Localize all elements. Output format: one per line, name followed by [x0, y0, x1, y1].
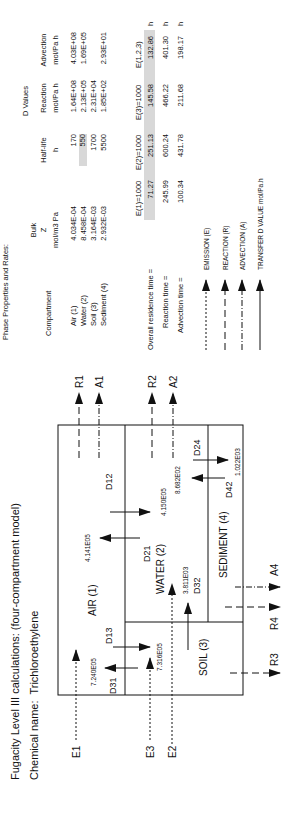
- time-value: 100.34: [177, 180, 185, 216]
- r1-label: R1: [74, 375, 85, 388]
- col-header-z-unit: mol/m3 Pa: [52, 204, 60, 256]
- col-header-compartment: Compartment: [45, 291, 53, 336]
- col-header-reaction: Reaction: [40, 76, 48, 120]
- legend-emission-label: EMISSION (E): [203, 228, 211, 270]
- row-z: 8.458E-04: [80, 206, 88, 256]
- row-reaction: 2.31E+04: [90, 80, 98, 120]
- d31-value: 7.240E05: [90, 658, 97, 686]
- time-value: 132.86: [147, 36, 155, 72]
- sediment-label: SEDIMENT (4): [218, 512, 229, 579]
- d13-value: 7.316E05: [156, 643, 163, 671]
- d24-label: D24: [192, 439, 202, 456]
- row-half-life: 170: [70, 134, 78, 166]
- row-half-life: 550: [79, 134, 87, 166]
- col-header-half-life-unit: h: [52, 130, 60, 170]
- time-label-advection: Advection time =: [177, 277, 185, 333]
- col-header-advection: Advection: [40, 28, 48, 72]
- row-name: Air (1): [70, 306, 78, 326]
- water-label: WATER (2): [155, 544, 166, 594]
- time-value: 600.24: [162, 134, 170, 170]
- compartment-diagram: AIR (1) WATER (2) SOIL (3) SEDIMENT (4) …: [0, 346, 294, 816]
- time-unit: h: [177, 22, 185, 26]
- row-reaction: 1.64E+08: [70, 80, 78, 120]
- row-half-life: 5500: [100, 134, 108, 166]
- time-value: 145.58: [147, 84, 155, 120]
- e2-label: E2: [167, 745, 178, 758]
- legend-advection-label: ADVECTION (A): [239, 222, 247, 270]
- e1-label: E1: [71, 745, 82, 758]
- time-value: 211.68: [177, 84, 185, 120]
- d42-value: 8.682E02: [174, 466, 181, 494]
- legend: EMISSION (E) REACTION (R) ADVECTION (A) …: [198, 176, 278, 356]
- d12-value: 4.150E05: [160, 488, 167, 516]
- col-e3: E(3)=1000: [135, 85, 143, 120]
- d24-value: 1.022E03: [234, 448, 241, 476]
- a2-label: A2: [168, 375, 179, 388]
- legend-transfer-label: TRANSFER D VALUE mol/Pa.h: [257, 178, 264, 270]
- d32-value: 3.811E03: [182, 566, 189, 594]
- row-advection: 4.03E+08: [70, 32, 78, 72]
- a4-label: A4: [269, 563, 280, 576]
- r2-label: R2: [147, 375, 158, 388]
- row-name: Sediment (4): [100, 283, 108, 326]
- d42-label: D42: [224, 481, 234, 498]
- time-label-reaction: Reaction time =: [162, 276, 170, 328]
- e3-label: E3: [145, 745, 156, 758]
- col-header-z: Z: [40, 210, 48, 250]
- a1-label: A1: [94, 375, 105, 388]
- col-e1: E(1)=1000: [135, 181, 143, 216]
- row-z: 3.164E-03: [90, 206, 98, 256]
- time-value: 245.99: [162, 180, 170, 216]
- row-advection: 1.69E+05: [80, 32, 88, 72]
- time-value: 71.27: [147, 180, 155, 216]
- d21-label: D21: [142, 545, 152, 562]
- col-header-bulk: Bulk: [30, 210, 38, 250]
- time-label-overall: Overall residence time =: [147, 269, 155, 350]
- col-e2: E(2)=1000: [135, 135, 143, 170]
- d21-value: 4.141E05: [84, 534, 91, 562]
- d13-label: D13: [104, 627, 114, 644]
- time-value: 401.30: [162, 36, 170, 72]
- rotated-page: Fugacity Level III calculations: (four-c…: [0, 0, 294, 816]
- row-name: Water (2): [80, 295, 88, 326]
- row-z: 4.034E-04: [70, 206, 78, 256]
- row-half-life: 1700: [90, 134, 98, 166]
- d12-label: D12: [104, 473, 114, 490]
- row-z: 2.932E-03: [100, 206, 108, 256]
- time-value: 466.22: [162, 84, 170, 120]
- row-name: Soil (3): [90, 302, 98, 326]
- time-value: 431.78: [177, 134, 185, 170]
- col-e123: E(1,2,3): [135, 41, 143, 68]
- d32-label: D32: [192, 577, 202, 594]
- time-value: 251.13: [147, 134, 155, 170]
- time-unit: h: [147, 22, 155, 26]
- r3-label: R3: [269, 653, 280, 666]
- time-unit: h: [162, 22, 170, 26]
- time-value: 198.17: [177, 36, 185, 72]
- row-reaction: 2.13E+05: [80, 80, 88, 120]
- d-values-header: D Values: [22, 86, 30, 116]
- col-header-reaction-unit: mol/Pa h: [52, 76, 60, 120]
- col-header-advection-unit: mol/Pa h: [52, 28, 60, 72]
- row-reaction: 1.85E+02: [100, 80, 108, 120]
- air-label: AIR (1): [87, 584, 98, 616]
- soil-label: SOIL (3): [198, 639, 209, 676]
- legend-reaction-label: REACTION (R): [222, 226, 230, 270]
- col-header-half-life: Half-life: [40, 130, 48, 170]
- table-heading: Phase Properties and Rates:: [2, 244, 10, 340]
- r4-label: R4: [269, 617, 280, 630]
- d31-label: D31: [108, 677, 118, 694]
- row-advection: 2.93E+01: [100, 32, 108, 72]
